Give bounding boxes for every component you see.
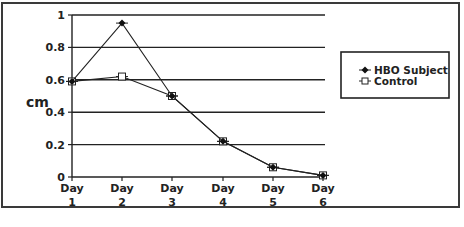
y-tick-label: 0.2	[46, 139, 66, 152]
line-chart: 00.20.40.60.81cmDay1Day2Day3Day4Day5Day6…	[0, 0, 464, 227]
x-tick-label: Day	[261, 182, 284, 195]
legend-label: Control	[374, 75, 417, 87]
gridlines	[72, 15, 325, 145]
open-square-marker	[119, 73, 126, 80]
x-tick-label: Day	[110, 182, 133, 195]
y-axis-label: cm	[26, 94, 49, 110]
x-tick-label: Day	[60, 182, 83, 195]
x-tick-label: 1	[68, 196, 76, 209]
open-square-marker-icon	[362, 78, 368, 84]
y-tick-label: 0.6	[46, 74, 66, 87]
axes: 00.20.40.60.81cmDay1Day2Day3Day4Day5Day6	[26, 9, 335, 209]
x-tick-label: 2	[118, 196, 126, 209]
x-tick-label: Day	[211, 182, 234, 195]
y-tick-label: 1	[57, 9, 65, 22]
x-tick-label: 3	[168, 196, 176, 209]
legend: HBO SubjectControl	[341, 52, 449, 98]
y-tick-label: 0.8	[46, 41, 66, 54]
x-tick-label: 5	[269, 196, 277, 209]
x-tick-label: 4	[219, 196, 227, 209]
x-tick-label: 6	[319, 196, 327, 209]
x-tick-label: Day	[311, 182, 334, 195]
series-line-hbo-subject	[72, 23, 323, 175]
x-tick-label: Day	[160, 182, 183, 195]
series-lines	[66, 20, 329, 179]
series-line-control	[72, 77, 323, 176]
